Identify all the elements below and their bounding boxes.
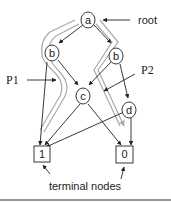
terminal-node-0-label: 0 xyxy=(121,148,127,160)
terminal-node-1-label: 1 xyxy=(39,148,45,160)
terminal-nodes-label: terminal nodes xyxy=(49,180,122,192)
terminal-arrow-0 xyxy=(121,167,124,179)
terminal-node-0: 0 xyxy=(116,146,133,163)
node-b-right-label: b xyxy=(113,50,119,62)
terminal-node-1: 1 xyxy=(34,146,50,162)
edge-a-b-right xyxy=(94,25,111,43)
node-d-label: d xyxy=(126,104,132,116)
edge-b-right-d xyxy=(120,64,128,98)
edge-b-left-t1 xyxy=(40,62,47,145)
root-label: root xyxy=(138,14,157,26)
node-b-left-label: b xyxy=(49,47,55,59)
p2-label: P2 xyxy=(141,63,154,77)
path-p2-highlight xyxy=(94,20,124,126)
node-b-right: b xyxy=(109,48,123,64)
edge-c-t1 xyxy=(45,104,80,145)
terminal-arrow-1 xyxy=(43,165,50,174)
node-d: d xyxy=(122,102,136,118)
bdd-diagram: a b b c d 1 0 root P1 P2 terminal nodes xyxy=(0,0,171,202)
diagram-canvas: a b b c d 1 0 root P1 P2 terminal nodes xyxy=(0,0,171,202)
node-c-label: c xyxy=(80,90,86,102)
node-b-left: b xyxy=(45,45,59,61)
p2-arrow xyxy=(104,74,135,91)
p1-label: P1 xyxy=(6,73,19,87)
node-a: a xyxy=(81,12,95,28)
node-c: c xyxy=(76,88,90,104)
node-a-label: a xyxy=(85,14,92,26)
